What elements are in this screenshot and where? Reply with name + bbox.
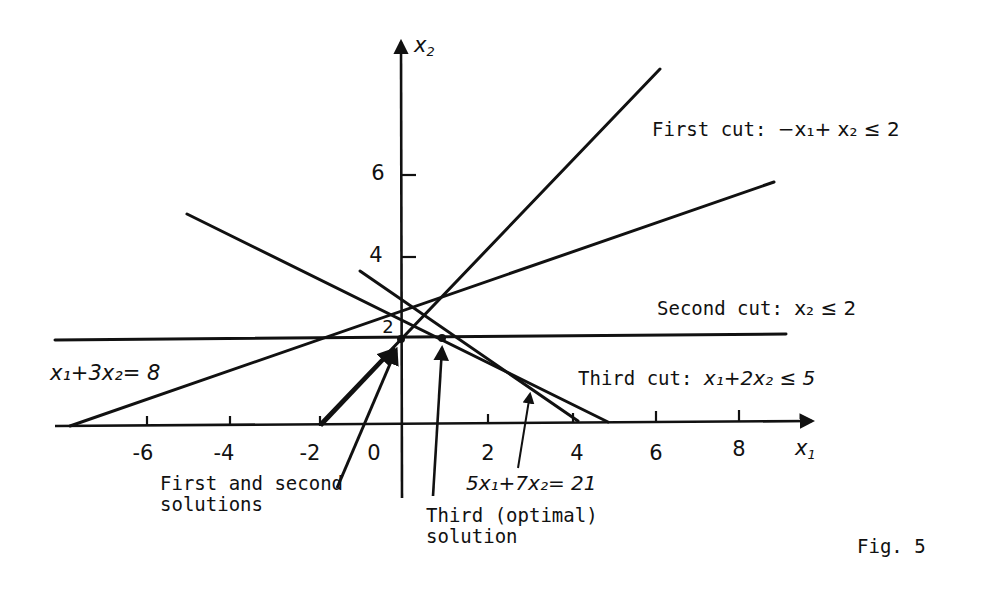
arrow-first-second-1 [321, 350, 393, 426]
constraint-5x1-7x2-label: 5x₁+7x₂= 21 [466, 472, 596, 494]
first-cut-label: First cut: −x₁+ x₂ ≤ 2 [652, 118, 900, 140]
second-cut-line [55, 334, 786, 340]
x2-axis-label: x2 [414, 34, 435, 59]
second-cut-label: Second cut: x₂ ≤ 2 [657, 297, 856, 319]
third-solution-point [438, 334, 446, 342]
x-tick-label: -2 [300, 441, 321, 465]
x-tick-label: 2 [481, 441, 494, 465]
x-tick-label: 0 [367, 441, 380, 465]
y-tick-label: 6 [371, 161, 384, 185]
x1-axis-label: x1 [795, 437, 816, 462]
x-tick-label: 8 [732, 437, 745, 461]
x-tick-label: -6 [133, 441, 154, 465]
x1-axis [55, 421, 812, 426]
third-cut-line [187, 214, 608, 422]
x-tick-label: 6 [649, 441, 662, 465]
arrow-5x1-7x2 [518, 394, 530, 468]
first-second-solutions-label: First and second solutions [160, 473, 343, 515]
arrow-third-solution [433, 348, 442, 496]
figure-caption: Fig. 5 [857, 536, 926, 557]
third-solution-label: Third (optimal) solution [426, 505, 598, 547]
y-tick-label: 4 [369, 243, 382, 267]
x2-axis [401, 42, 402, 498]
third-cut-label: Third cut: x₁+2x₂ ≤ 5 [578, 367, 815, 389]
x-tick-label: 4 [570, 441, 583, 465]
arrow-first-second-2 [337, 350, 396, 488]
y-ticks [402, 175, 416, 257]
y-tick-label: 2 [382, 316, 393, 337]
x-tick-label: -4 [214, 441, 235, 465]
constraint-x1-3x2-label: x₁+3x₂= 8 [50, 362, 160, 385]
first-second-solution-point [397, 335, 405, 343]
